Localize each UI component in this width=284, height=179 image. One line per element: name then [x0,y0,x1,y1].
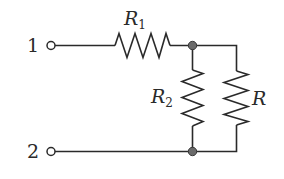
resistor-r2-label: R2 [150,85,173,110]
resistor-r1-zigzag [115,34,170,58]
resistor-r1: R1 [115,7,170,58]
wire-r-to-bottom [193,125,237,152]
resistor-r2: R2 [150,46,203,152]
resistor-r1-label: R1 [123,7,146,32]
terminal-1-circle [47,42,55,50]
circuit-diagram: 1 R1 R2 R 2 [0,0,284,179]
resistor-r-zigzag [224,71,248,125]
terminal-1: 1 [27,34,55,56]
resistor-r: R [193,71,267,152]
terminal-2-circle [47,148,55,156]
resistor-r2-zigzag [182,70,203,126]
resistor-r-label: R [251,87,266,109]
terminal-2: 2 [27,140,55,162]
terminal-1-label: 1 [27,34,39,56]
bottom-junction-node [188,147,196,155]
top-junction-node [188,41,196,49]
wire-r1-to-top-node [170,46,237,72]
terminal-2-label: 2 [27,140,39,162]
